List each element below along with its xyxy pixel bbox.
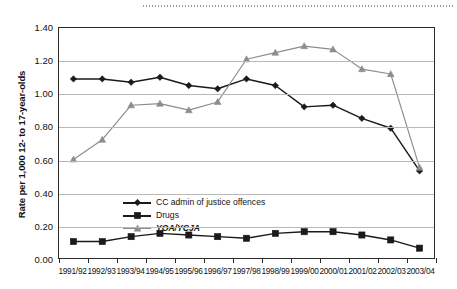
x-axis-tick (233, 258, 234, 263)
data-point (359, 66, 366, 72)
legend-key-marker (133, 211, 142, 220)
series-diamond (70, 74, 423, 174)
y-axis-tick-label: 1.00 (0, 88, 53, 99)
x-axis-tick-label: 1999/00 (290, 266, 318, 276)
y-axis-tick-label: 0.60 (0, 154, 53, 165)
x-axis-tick-label: 2003/04 (406, 266, 434, 276)
x-axis-tick (59, 258, 60, 263)
gridline (59, 94, 434, 95)
x-axis-tick (378, 258, 379, 263)
x-axis-tick-label: 2000/01 (319, 266, 347, 276)
legend-label: Drugs (156, 209, 179, 222)
x-axis-tick-label: 1996/97 (203, 266, 231, 276)
data-point (243, 76, 249, 82)
series-line (73, 46, 419, 168)
x-axis-tick-label: 1997/98 (232, 266, 260, 276)
data-point (214, 99, 221, 105)
x-axis-tick-label: 1995/96 (174, 266, 202, 276)
x-axis-tick (349, 258, 350, 263)
gridline (59, 194, 434, 195)
plot-area: CC admin of justice offencesDrugsYOA/YCJ… (58, 27, 435, 259)
chart-figure: Rate per 1,000 12- to 17-year-olds 0.000… (0, 0, 457, 289)
x-axis-tick-label: 1992/93 (87, 266, 115, 276)
legend-label: CC admin of justice offences (156, 196, 265, 209)
data-point (157, 74, 163, 80)
legend-key-square-icon (123, 209, 151, 222)
x-axis-tick (262, 258, 263, 263)
data-point (301, 229, 307, 235)
decorative-dotted-rule (143, 5, 454, 7)
data-point (330, 102, 336, 108)
x-axis-tick-label: 2002/03 (377, 266, 405, 276)
data-point (128, 79, 134, 85)
data-point (99, 76, 105, 82)
x-axis-tick (146, 258, 147, 263)
legend-item[interactable]: CC admin of justice offences (123, 196, 265, 209)
x-axis-tick-label: 1994/95 (145, 266, 173, 276)
gridline (59, 127, 434, 128)
data-point (70, 76, 76, 82)
x-axis-tick-label: 1991/92 (58, 266, 86, 276)
x-axis-tick (204, 258, 205, 263)
x-axis-tick (175, 258, 176, 263)
x-axis-tick-label: 1993/94 (116, 266, 144, 276)
legend-key-marker (133, 198, 142, 207)
x-axis-tick (117, 258, 118, 263)
legend-key-marker (133, 224, 142, 233)
data-point (272, 230, 278, 236)
y-axis-tick-label: 0.40 (0, 187, 53, 198)
y-axis-tick-label: 0.80 (0, 121, 53, 132)
x-axis-tick (88, 258, 89, 263)
data-point (388, 237, 394, 243)
legend-key-diamond-icon (123, 196, 151, 209)
series-line (73, 77, 419, 171)
x-axis-tick (291, 258, 292, 263)
y-axis-tick-label: 1.40 (0, 22, 53, 33)
x-axis-tick-label: 2001/02 (348, 266, 376, 276)
data-point (359, 115, 365, 121)
data-point (99, 238, 105, 244)
chart-legend: CC admin of justice offencesDrugsYOA/YCJ… (123, 196, 265, 235)
data-point (330, 229, 336, 235)
x-axis-tick (320, 258, 321, 263)
gridline (59, 227, 434, 228)
data-point (70, 238, 76, 244)
y-axis-tick-label: 0.20 (0, 220, 53, 231)
legend-item[interactable]: YOA/YCJA (123, 222, 265, 235)
legend-item[interactable]: Drugs (123, 209, 265, 222)
x-axis-tick (407, 258, 408, 263)
legend-label: YOA/YCJA (156, 222, 200, 235)
gridline (59, 61, 434, 62)
data-point (186, 82, 192, 88)
data-point (214, 86, 220, 92)
x-axis-tick (436, 258, 437, 263)
data-point (301, 43, 308, 49)
data-point (243, 235, 249, 241)
x-axis-tick-labels: 1991/921992/931993/941994/951995/961996/… (58, 266, 435, 282)
data-point (359, 232, 365, 238)
y-axis-tick-label: 1.20 (0, 55, 53, 66)
legend-key-triangle-icon (123, 222, 151, 235)
gridline (59, 161, 434, 162)
data-point (416, 245, 422, 251)
x-axis-tick-label: 1998/99 (261, 266, 289, 276)
y-axis-tick-label: 0.00 (0, 254, 53, 265)
